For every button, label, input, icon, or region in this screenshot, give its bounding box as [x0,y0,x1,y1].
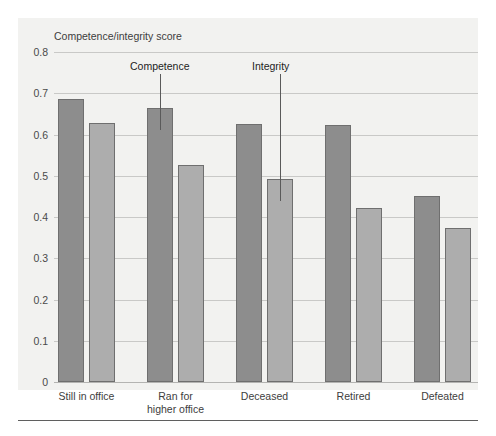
bar-competence-4 [414,196,440,382]
bar-integrity-4 [445,228,471,382]
bar-integrity-2 [267,179,293,382]
x-tick-label-4: Defeated [383,390,496,403]
plot-inner: Competence/integrity score 00.10.20.30.4… [18,18,478,390]
bar-integrity-3 [356,208,382,382]
annotation-label-competence: Competence [130,60,190,72]
annotation-leader-line-competence [160,74,161,130]
bottom-divider [18,420,478,421]
annotation-leader-line-integrity [280,74,281,201]
bar-competence-1 [147,108,173,382]
bar-competence-0 [58,99,84,382]
x-tick-label-line: higher office [116,403,236,416]
annotation-label-integrity: Integrity [252,60,289,72]
x-tick-label-line: Defeated [383,390,496,403]
bars-layer [18,18,478,390]
plot-panel: Competence/integrity score 00.10.20.30.4… [18,18,478,390]
figure: Competence/integrity score 00.10.20.30.4… [0,0,496,436]
bar-integrity-1 [178,165,204,382]
bar-competence-2 [236,124,262,382]
bar-competence-3 [325,125,351,382]
bar-integrity-0 [89,123,115,382]
